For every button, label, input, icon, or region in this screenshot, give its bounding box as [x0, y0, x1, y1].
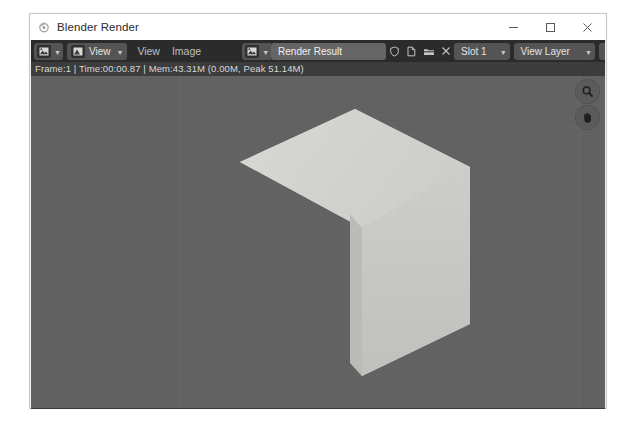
- window-title: Blender Render: [57, 21, 139, 33]
- chevron-down-icon: ▼: [116, 49, 123, 56]
- cube-render: [180, 62, 579, 408]
- window-bottom-edge: [31, 408, 605, 409]
- zoom-gizmo-button[interactable]: [576, 80, 599, 103]
- minimize-button[interactable]: [495, 14, 532, 40]
- menu-image[interactable]: Image: [166, 45, 207, 57]
- shield-icon[interactable]: [386, 43, 403, 60]
- render-stats-text: Frame:1 | Time:00:00.87 | Mem:43.31M (0.…: [31, 62, 605, 76]
- new-image-icon[interactable]: [403, 43, 420, 60]
- maximize-button[interactable]: [532, 14, 569, 40]
- image-datablock: ▼ Render Result: [242, 43, 454, 60]
- image-datablock-icon: [245, 45, 259, 58]
- blender-icon: [37, 20, 51, 34]
- menu-view[interactable]: View: [131, 45, 166, 57]
- render-pass-button[interactable]: Combined ▼: [599, 43, 605, 60]
- open-folder-icon[interactable]: [420, 43, 437, 60]
- window-controls: [495, 14, 606, 40]
- pan-gizmo-button[interactable]: [576, 106, 599, 129]
- chevron-down-icon: ▼: [262, 49, 269, 56]
- image-view-mode-button[interactable]: View ▼: [67, 43, 127, 60]
- render-slot-button[interactable]: Slot 1 ▼: [454, 43, 510, 60]
- blender-render-window: Blender Render ▼: [29, 13, 607, 409]
- chevron-down-icon: ▼: [585, 49, 592, 56]
- image-view-mode-label: View: [85, 46, 114, 57]
- rendered-image: [180, 62, 579, 408]
- title-bar: Blender Render: [30, 14, 606, 40]
- render-slot-label: Slot 1: [458, 46, 497, 57]
- unlink-datablock-icon[interactable]: [437, 43, 454, 60]
- render-pass-label: Combined: [603, 46, 605, 57]
- view-layer-button[interactable]: View Layer ▼: [514, 43, 595, 60]
- view-layer-label: View Layer: [518, 46, 582, 57]
- image-canvas[interactable]: Frame:1 | Time:00:00.87 | Mem:43.31M (0.…: [31, 62, 605, 408]
- chevron-down-icon: ▼: [500, 49, 507, 56]
- magnifier-icon: [581, 85, 594, 98]
- hand-icon: [581, 111, 594, 124]
- datablock-browse-button[interactable]: ▼: [242, 43, 271, 60]
- datablock-name-field[interactable]: Render Result: [271, 43, 386, 60]
- image-editor-icon: [37, 45, 51, 58]
- image-view-mode-icon: [71, 45, 85, 58]
- close-button[interactable]: [569, 14, 606, 40]
- editor-type-button[interactable]: ▼: [34, 43, 63, 60]
- chevron-down-icon: ▼: [54, 49, 61, 56]
- image-editor-header: ▼ View ▼ View Image: [31, 40, 605, 62]
